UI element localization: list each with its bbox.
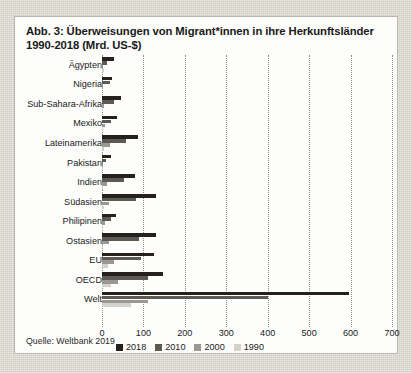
chart-row: Sub-Sahara-Afrika (15, 94, 399, 114)
chart-legend: 2018201020001990 (116, 342, 264, 352)
x-tick-200: 200 (177, 328, 192, 338)
bar-1990 (102, 127, 103, 131)
bar-2010 (102, 159, 106, 163)
legend-swatch-2018 (116, 344, 123, 351)
chart-row: Nigeria (15, 75, 399, 95)
y-axis-label-eu: EU (18, 255, 102, 265)
legend-item-2018[interactable]: 2018 (116, 342, 146, 352)
legend-label-2018: 2018 (126, 342, 146, 352)
chart-row: Welt (15, 290, 399, 310)
bar-group (102, 153, 392, 173)
bar-1990 (102, 245, 103, 249)
bar-group (102, 211, 392, 231)
legend-label-2000: 2000 (204, 342, 224, 352)
chart-row: Mexiko (15, 114, 399, 134)
source-note: Quelle: Weltbank 2019 (26, 336, 115, 346)
bar-group (102, 75, 392, 95)
legend-label-2010: 2010 (165, 342, 185, 352)
legend-swatch-2000 (194, 344, 201, 351)
x-tick-300: 300 (219, 328, 234, 338)
x-tick-500: 500 (302, 328, 317, 338)
bar-group (102, 290, 392, 310)
y-axis-label-mexiko: Mexiko (18, 118, 102, 128)
y-axis-label-lateinamerika: Lateinamerika (18, 138, 102, 148)
bar-1990 (102, 303, 131, 307)
bar-group (102, 114, 392, 134)
chart-row: EU (15, 250, 399, 270)
bar-group (102, 192, 392, 212)
x-tick-700: 700 (384, 328, 399, 338)
bar-1990 (102, 225, 103, 229)
bar-group (102, 172, 392, 192)
bar-1990 (102, 69, 104, 73)
bar-1990 (102, 147, 104, 151)
chart-row: Indien (15, 172, 399, 192)
chart-row: Südasien (15, 192, 399, 212)
legend-item-2000[interactable]: 2000 (194, 342, 224, 352)
bar-group (102, 231, 392, 251)
bar-2010 (102, 81, 110, 85)
legend-swatch-2010 (155, 344, 162, 351)
legend-label-1990: 1990 (244, 342, 264, 352)
bar-2000 (102, 84, 103, 88)
bar-1990 (102, 167, 103, 171)
bar-1990 (102, 108, 103, 112)
chart-row: OECD (15, 270, 399, 290)
chart-rows: ÄgyptenNigeriaSub-Sahara-AfrikaMexikoLat… (15, 55, 399, 309)
y-axis-label-s-dasien: Südasien (18, 197, 102, 207)
x-tick-600: 600 (343, 328, 358, 338)
bar-group (102, 94, 392, 114)
bar-1990 (102, 284, 111, 288)
figure-card: Abb. 3: Überweisungen von Migrant*innen … (14, 16, 398, 354)
chart-row: Ägypten (15, 55, 399, 75)
legend-item-2010[interactable]: 2010 (155, 342, 185, 352)
bar-group (102, 250, 392, 270)
y-axis-label-pakistan: Pakistan (18, 158, 102, 168)
x-axis-tick-labels: 0100200300400500600700 (102, 328, 392, 340)
bar-1990 (102, 186, 103, 190)
y-axis-label-indien: Indien (18, 177, 102, 187)
bar-1990 (102, 206, 104, 210)
x-tick-100: 100 (136, 328, 151, 338)
chart-row: Pakistan (15, 153, 399, 173)
legend-item-1990[interactable]: 1990 (234, 342, 264, 352)
bar-chart-plot: ÄgyptenNigeriaSub-Sahara-AfrikaMexikoLat… (15, 55, 399, 327)
bar-group (102, 270, 392, 290)
y-axis-label--gypten: Ägypten (18, 60, 102, 70)
y-axis-label-philipinen: Philipinen (18, 216, 102, 226)
y-axis-label-sub-sahara-afrika: Sub-Sahara-Afrika (18, 99, 102, 109)
y-axis-label-ostasien: Ostasien (18, 236, 102, 246)
chart-row: Lateinamerika (15, 133, 399, 153)
chart-row: Ostasien (15, 231, 399, 251)
y-axis-label-nigeria: Nigeria (18, 79, 102, 89)
bar-group (102, 133, 392, 153)
bar-1990 (102, 264, 108, 268)
x-tick-400: 400 (260, 328, 275, 338)
y-axis-label-oecd: OECD (18, 275, 102, 285)
figure-title: Abb. 3: Überweisungen von Migrant*innen … (26, 24, 387, 53)
bar-group (102, 55, 392, 75)
y-axis-label-welt: Welt (18, 294, 102, 304)
legend-swatch-1990 (234, 344, 241, 351)
chart-row: Philipinen (15, 211, 399, 231)
